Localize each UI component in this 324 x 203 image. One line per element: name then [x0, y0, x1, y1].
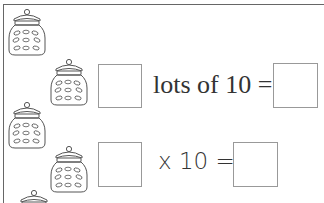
count-input-box-row1[interactable]	[98, 64, 142, 108]
count-input-box-row2[interactable]	[98, 142, 142, 187]
row1-equation-text: lots of 10 =	[153, 70, 272, 100]
sweet-jar-icon	[49, 58, 89, 106]
sweet-jar-icon	[7, 8, 47, 56]
sweet-jar-icon	[7, 101, 47, 149]
sweet-jar-icon	[14, 189, 54, 203]
answer-input-box-row2[interactable]	[233, 142, 278, 187]
sweet-jar-icon	[49, 145, 89, 193]
row2-equation-text: x 10 =	[158, 148, 235, 174]
answer-input-box-row1[interactable]	[273, 63, 318, 108]
